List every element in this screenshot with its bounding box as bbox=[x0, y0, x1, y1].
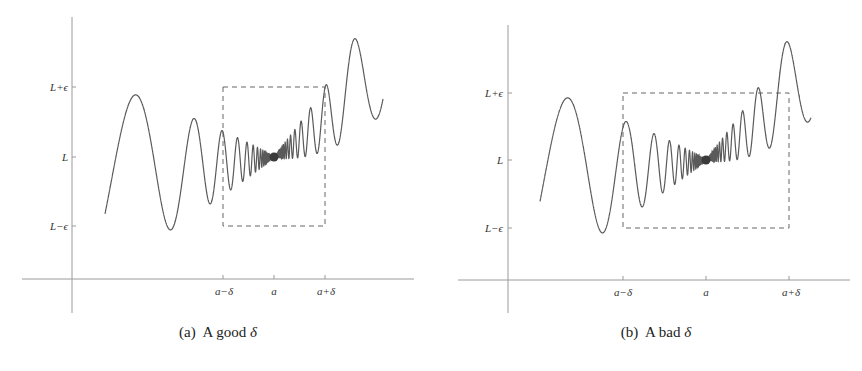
y-tick-l: L bbox=[459, 154, 503, 166]
x-tick-a-plus-delta: a+δ bbox=[782, 286, 800, 298]
caption-b: (b) A bad δ bbox=[621, 324, 691, 341]
y-tick-l-minus-eps: L−ϵ bbox=[24, 220, 68, 232]
y-tick-l-plus-eps: L+ϵ bbox=[459, 87, 503, 99]
x-tick-marks bbox=[623, 276, 789, 280]
y-tick-l-minus-eps: L−ϵ bbox=[459, 222, 503, 234]
y-tick-l: L bbox=[24, 151, 68, 163]
x-tick-a-minus-delta: a−δ bbox=[215, 285, 233, 297]
function-curve bbox=[105, 39, 383, 230]
caption-text: A bad bbox=[645, 324, 680, 340]
plot-b bbox=[431, 0, 862, 371]
y-tick-marks bbox=[72, 87, 76, 226]
x-tick-marks bbox=[223, 275, 325, 279]
limit-point bbox=[270, 153, 279, 162]
x-tick-a: a bbox=[703, 286, 709, 298]
y-tick-marks bbox=[508, 93, 512, 228]
caption-a: (a) A good δ bbox=[179, 324, 257, 341]
y-tick-l-plus-eps: L+ϵ bbox=[24, 81, 68, 93]
function-curve bbox=[540, 42, 811, 233]
caption-text: A good bbox=[202, 324, 246, 340]
caption-prefix: (b) bbox=[621, 324, 639, 340]
plot-a bbox=[0, 0, 431, 371]
caption-symbol: δ bbox=[250, 324, 257, 340]
x-tick-a: a bbox=[271, 285, 277, 297]
panel-a-good-delta: L+ϵ L L−ϵ a−δ a a+δ (a) A good δ bbox=[0, 0, 431, 371]
panel-b-bad-delta: L+ϵ L L−ϵ a−δ a a+δ (b) A bad δ bbox=[431, 0, 862, 371]
limit-point bbox=[702, 156, 711, 165]
caption-symbol: δ bbox=[684, 324, 691, 340]
x-tick-a-plus-delta: a+δ bbox=[317, 285, 335, 297]
caption-prefix: (a) bbox=[179, 324, 196, 340]
x-tick-a-minus-delta: a−δ bbox=[614, 286, 632, 298]
